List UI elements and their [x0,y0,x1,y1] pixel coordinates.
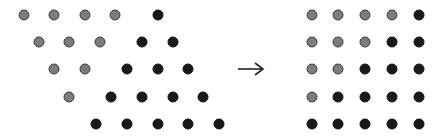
left-black-dot [153,10,164,21]
left-black-dot [153,119,164,130]
left-black-dot [168,92,179,103]
left-gray-dot [110,10,121,21]
left-gray-dot [34,37,45,48]
right-gray-dot [307,37,318,48]
right-black-dot [333,119,344,130]
right-black-dot [360,119,371,130]
right-gray-dot [307,64,318,75]
right-gray-dot [307,92,318,103]
right-gray-dot [333,37,344,48]
left-black-dot [91,119,102,130]
right-gray-dot [360,10,371,21]
right-black-dot [414,10,425,21]
left-black-dot [137,37,148,48]
left-black-dot [122,64,133,75]
right-gray-dot [333,10,344,21]
left-gray-dot [64,37,75,48]
left-black-dot [106,92,117,103]
left-black-dot [183,64,194,75]
right-black-dot [387,64,398,75]
right-gray-dot [387,10,398,21]
left-gray-dot [80,64,91,75]
left-black-dot [122,119,133,130]
dot-transformation-diagram [0,0,446,138]
left-black-dot [198,92,209,103]
right-black-dot [307,119,318,130]
left-gray-dot [19,10,30,21]
right-black-dot [414,37,425,48]
right-gray-dot [307,10,318,21]
right-black-dot [387,37,398,48]
right-black-dot [360,92,371,103]
right-black-dot [414,119,425,130]
right-black-dot [414,64,425,75]
left-black-dot [137,92,148,103]
right-gray-dot [333,64,344,75]
left-black-dot [214,119,225,130]
left-gray-dot [80,10,91,21]
left-gray-dot [49,10,60,21]
left-black-dot [183,119,194,130]
left-gray-dot [64,92,75,103]
left-gray-dot [95,37,106,48]
left-gray-dot [49,64,60,75]
right-black-dot [360,64,371,75]
right-arrow-icon [237,60,265,78]
left-black-dot [168,37,179,48]
right-black-dot [333,92,344,103]
right-black-dot [414,92,425,103]
right-black-dot [387,119,398,130]
left-black-dot [153,64,164,75]
right-black-dot [387,92,398,103]
right-gray-dot [360,37,371,48]
